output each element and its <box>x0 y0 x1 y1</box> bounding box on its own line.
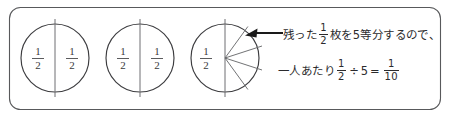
circle-1-right-numerator: 1 <box>69 45 75 57</box>
circle-3-left-denominator: 2 <box>203 59 209 71</box>
annotation-line-2: 一人あたり 1 2 ÷5= 1 10 <box>278 60 401 83</box>
annotation-line2-fraction-b: 1 10 <box>384 59 400 82</box>
sector-line-1 <box>225 27 248 59</box>
sector-line-2 <box>225 46 262 58</box>
annotation-line2-fraction-a: 1 2 <box>337 59 346 82</box>
circle-1-left-fraction: 1 2 <box>32 45 44 71</box>
annotation-line1-fraction: 1 2 <box>319 23 328 46</box>
annotation-line2-divide-operator: ÷ <box>349 64 359 78</box>
circle-2-right-denominator: 2 <box>154 59 160 71</box>
circle-3-group: 1 2 <box>191 19 262 97</box>
arrow-head-icon <box>245 29 258 38</box>
annotation-line2-fraction-b-numerator: 1 <box>384 59 400 70</box>
circle-2-left-denominator: 2 <box>120 59 126 71</box>
annotation-line2-fraction-a-numerator: 1 <box>337 59 346 70</box>
annotation-line2-fraction-a-denominator: 2 <box>337 72 346 83</box>
annotation-line1-fraction-denominator: 2 <box>319 36 328 47</box>
circle-1-group: 1 2 1 2 <box>21 19 89 97</box>
annotation-line1-prefix: 残った <box>283 28 317 42</box>
circle-3-left-numerator: 1 <box>203 45 209 57</box>
sector-line-3 <box>225 58 262 70</box>
annotation-line1-suffix: 枚を5等分するので、 <box>330 28 440 42</box>
circle-1-right-fraction: 1 2 <box>66 45 78 71</box>
figure-container: 1 2 1 2 1 2 1 2 <box>0 0 450 117</box>
circle-2-group: 1 2 1 2 <box>106 19 174 97</box>
circle-2-left-fraction: 1 2 <box>117 45 129 71</box>
annotation-line-1: 残った 1 2 枚を5等分するので、 <box>283 24 440 47</box>
circle-2-left-numerator: 1 <box>120 45 126 57</box>
circle-2-right-fraction: 1 2 <box>151 45 163 71</box>
annotation-line2-equals-operator: = <box>370 64 380 78</box>
annotation-line1-fraction-numerator: 1 <box>319 23 328 34</box>
circle-2-right-numerator: 1 <box>154 45 160 57</box>
annotation-line2-prefix: 一人あたり <box>278 64 335 78</box>
annotation-arrow <box>245 29 283 38</box>
fraction-diagram-svg: 1 2 1 2 1 2 1 2 <box>0 0 450 117</box>
circle-1-right-denominator: 2 <box>69 59 75 71</box>
circle-3-left-fraction: 1 2 <box>200 45 212 71</box>
annotation-line2-fraction-b-denominator: 10 <box>384 72 400 83</box>
circle-1-left-denominator: 2 <box>35 59 41 71</box>
sector-line-4 <box>225 58 248 90</box>
annotation-line2-divisor: 5 <box>361 64 369 78</box>
circle-1-left-numerator: 1 <box>35 45 41 57</box>
